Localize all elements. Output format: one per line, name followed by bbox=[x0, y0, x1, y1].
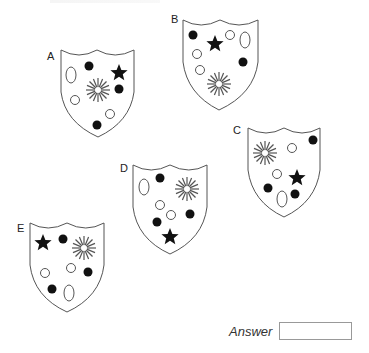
black-dot-icon bbox=[84, 268, 93, 277]
shield-b bbox=[183, 20, 258, 110]
black-dot-icon bbox=[264, 184, 273, 193]
sunburst-icon bbox=[253, 141, 277, 165]
answer-input[interactable] bbox=[279, 322, 352, 340]
black-dot-icon bbox=[85, 62, 94, 71]
black-dot-icon bbox=[153, 218, 162, 227]
black-dot-icon bbox=[309, 136, 318, 145]
black-dot-icon bbox=[156, 174, 165, 183]
black-dot-icon bbox=[115, 85, 124, 94]
black-dot-icon bbox=[48, 285, 57, 294]
sunburst-icon bbox=[86, 78, 110, 102]
sunburst-icon bbox=[72, 236, 96, 260]
black-dot-icon bbox=[93, 121, 102, 130]
black-dot-icon bbox=[291, 190, 300, 199]
shield-e bbox=[30, 223, 104, 312]
black-dot-icon bbox=[186, 210, 195, 219]
shield-d bbox=[133, 165, 207, 254]
black-dot-icon bbox=[59, 235, 68, 244]
answer-label: Answer bbox=[229, 324, 272, 339]
black-dot-icon bbox=[239, 58, 248, 67]
shield-a bbox=[61, 50, 134, 137]
sunburst-icon bbox=[175, 177, 199, 201]
black-dot-icon bbox=[189, 31, 198, 40]
shields-figure bbox=[0, 0, 369, 353]
sunburst-icon bbox=[207, 72, 231, 96]
shield-c bbox=[248, 128, 320, 217]
